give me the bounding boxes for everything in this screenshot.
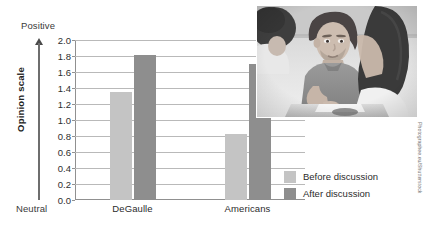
y-tick-label: 1.6: [49, 67, 71, 78]
legend-item-before: Before discussion: [284, 168, 378, 185]
x-tick-label-degaulle: DeGaulle: [112, 203, 152, 214]
y-tick-label: 0.4: [49, 163, 71, 174]
figure-container: Positive Neutral Opinion scale 0.00.20.4…: [0, 0, 443, 231]
bar-degaulle-after: [134, 55, 156, 200]
legend-label: Before discussion: [303, 171, 378, 182]
y-axis-title: Opinion scale: [15, 55, 26, 145]
bar-americans-before: [225, 134, 247, 200]
y-tick-label: 1.0: [49, 115, 71, 126]
scale-anchor-positive: Positive: [21, 20, 55, 31]
y-tick-label: 0.2: [49, 179, 71, 190]
photo-credit: Photographee.eu/Shutterstock: [417, 122, 423, 214]
x-tick-label-americans: Americans: [225, 203, 271, 214]
bar-degaulle-before: [110, 92, 132, 200]
photo-image: [257, 6, 417, 117]
y-tick-label: 0.8: [49, 131, 71, 142]
y-tick-label: 1.4: [49, 83, 71, 94]
legend-swatch: [284, 188, 296, 200]
y-tick-label: 2.0: [49, 35, 71, 46]
y-tick-label: 0.0: [49, 195, 71, 206]
legend-label: After discussion: [303, 188, 370, 199]
y-tick-label: 1.2: [49, 99, 71, 110]
y-tick-mark: [72, 200, 75, 201]
chart-legend: Before discussionAfter discussion: [284, 168, 378, 202]
discussion-photo: [256, 5, 418, 118]
arrow-shaft: [38, 43, 40, 200]
legend-item-after: After discussion: [284, 185, 378, 202]
opinion-axis-arrow: [33, 38, 45, 200]
scale-anchor-neutral: Neutral: [16, 203, 47, 214]
y-tick-label: 1.8: [49, 51, 71, 62]
y-tick-label: 0.6: [49, 147, 71, 158]
legend-swatch: [284, 171, 296, 183]
